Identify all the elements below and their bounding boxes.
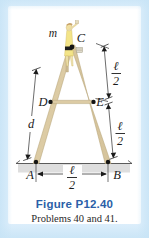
dimension-upper-right <box>96 44 113 102</box>
joint-dot-D <box>48 100 52 104</box>
base-denominator: 2 <box>69 178 75 192</box>
label-point-E: E <box>95 95 104 109</box>
figure-caption: Figure P12.40 Problems 40 and 41. <box>0 198 149 225</box>
lower-right-numerator: ℓ <box>118 119 123 133</box>
upper-right-numerator: ℓ <box>114 59 119 73</box>
base-numerator: ℓ <box>70 163 75 177</box>
joint-dot-E <box>91 100 95 104</box>
label-point-D: D <box>37 95 47 109</box>
lower-right-denominator: 2 <box>117 134 123 148</box>
joint-dot-A <box>34 160 38 164</box>
label-upper-right-half-length: ℓ 2 <box>112 59 122 88</box>
ladder-crossbar <box>50 100 94 103</box>
figure-problems: Problems 40 and 41. <box>0 212 149 225</box>
joint-dot-C <box>70 45 75 50</box>
figure-container: ℓ 2 ℓ 2 d <box>0 0 149 238</box>
figure-number: Figure P12.40 <box>0 198 149 211</box>
ladder-diagram: ℓ 2 ℓ 2 d <box>0 0 149 200</box>
dimension-left-d: d <box>23 67 40 160</box>
label-point-B: B <box>113 168 121 182</box>
paint-bucket-icon <box>77 48 83 53</box>
label-lower-right-half-length: ℓ 2 <box>116 119 126 148</box>
label-point-A: A <box>25 168 34 182</box>
label-mass-m: m <box>49 27 57 39</box>
label-point-C: C <box>77 31 86 45</box>
upper-right-denominator: 2 <box>113 74 119 88</box>
ladder-right-leg <box>70 45 111 164</box>
label-distance-d: d <box>28 117 35 131</box>
joint-dot-B <box>106 160 110 164</box>
